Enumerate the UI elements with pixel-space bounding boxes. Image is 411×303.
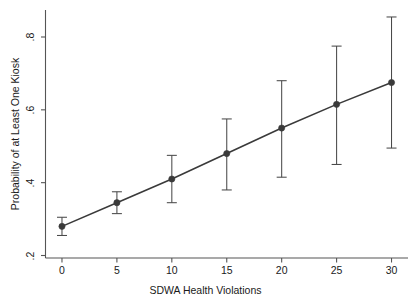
- x-tick-label: 5: [105, 264, 129, 276]
- x-tick-label: 25: [325, 264, 349, 276]
- data-point-marker: [388, 79, 394, 85]
- y-tick-label: .4: [23, 175, 37, 191]
- y-tick-label: .8: [23, 29, 37, 45]
- plot-area: [0, 0, 411, 303]
- y-tick-label: .6: [23, 102, 37, 118]
- x-tick-label: 0: [50, 264, 74, 276]
- y-tick-label: .2: [23, 248, 37, 264]
- x-tick-label: 30: [380, 264, 404, 276]
- chart-figure: .2 .4 .6 .8 0 5 10 15 20 25 30 SDWA Heal…: [0, 0, 411, 303]
- data-point-marker: [279, 125, 285, 131]
- data-point-marker: [59, 223, 65, 229]
- x-tick-label: 20: [270, 264, 294, 276]
- y-axis-title: Probability of at Least One Kiosk: [8, 9, 22, 259]
- x-tick-label: 15: [215, 264, 239, 276]
- data-point-marker: [333, 101, 339, 107]
- data-point-marker: [224, 150, 230, 156]
- data-point-marker: [114, 200, 120, 206]
- x-tick-label: 10: [160, 264, 184, 276]
- data-point-marker: [169, 176, 175, 182]
- x-axis-title: SDWA Health Violations: [0, 284, 411, 296]
